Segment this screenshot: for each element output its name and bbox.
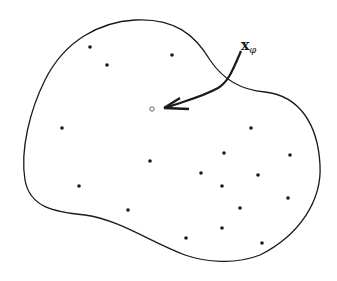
- data-point: [260, 241, 264, 245]
- data-point: [148, 159, 152, 163]
- data-point: [184, 236, 188, 240]
- data-point: [60, 126, 64, 130]
- diagram-canvas: [0, 0, 337, 281]
- label-subscript: φ: [249, 44, 256, 55]
- query-point-open-circle: [150, 107, 154, 111]
- data-point: [220, 226, 224, 230]
- x-phi-label: xφ: [241, 35, 256, 54]
- data-point: [222, 151, 226, 155]
- data-point: [88, 45, 92, 49]
- data-point: [288, 153, 292, 157]
- data-point: [256, 173, 260, 177]
- data-point: [170, 53, 174, 57]
- data-point: [77, 184, 81, 188]
- data-point: [105, 63, 109, 67]
- data-point: [199, 171, 203, 175]
- data-point: [238, 206, 242, 210]
- data-point: [220, 184, 224, 188]
- data-point: [126, 208, 130, 212]
- data-point: [249, 126, 253, 130]
- data-point: [286, 196, 290, 200]
- data-points: [60, 45, 292, 245]
